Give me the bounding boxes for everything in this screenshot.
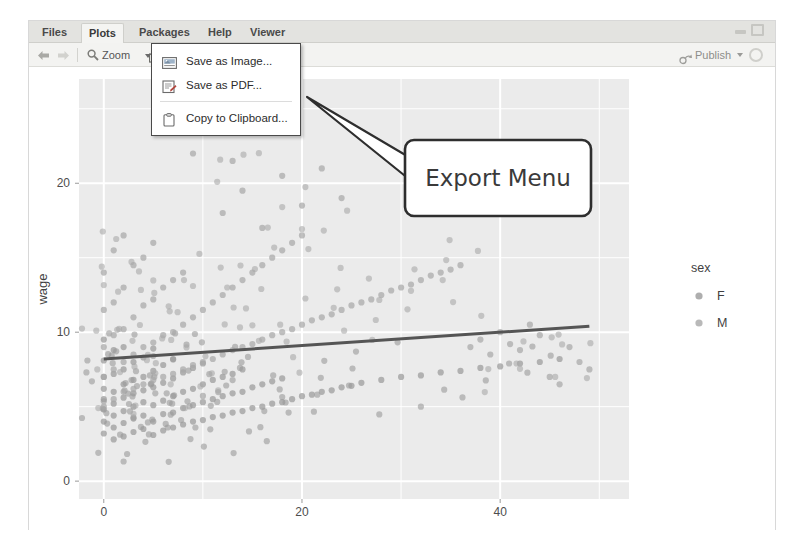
menu-separator: [160, 101, 292, 102]
plots-pane: Files Plots Packages Help Viewer: [28, 20, 776, 530]
tab-files[interactable]: Files: [35, 23, 74, 42]
menu-item-label: Copy to Clipboard...: [186, 112, 288, 124]
menu-item-label: Save as PDF...: [186, 79, 262, 91]
svg-text:0: 0: [100, 505, 107, 519]
menu-item-copy-to-clipboard[interactable]: Copy to Clipboard...: [152, 106, 300, 130]
svg-text:M: M: [717, 316, 727, 330]
refresh-icon[interactable]: [749, 48, 763, 62]
svg-text:20: 20: [295, 505, 309, 519]
ggplot-scatter: 0204001020experwagesexFM: [29, 67, 775, 530]
back-arrow-icon[interactable]: [37, 50, 50, 61]
publish-icon: [679, 49, 692, 61]
menu-item-save-as-image[interactable]: Save as Image...: [152, 49, 300, 73]
window-controls: [735, 24, 769, 38]
image-file-icon: [162, 54, 177, 68]
magnifier-icon[interactable]: [87, 49, 99, 61]
toolbar-separator: [77, 48, 78, 62]
publish-button[interactable]: Publish: [695, 43, 731, 67]
export-dropdown-menu: Save as Image... Save as PDF...: [151, 43, 301, 136]
tab-packages[interactable]: Packages: [132, 23, 197, 42]
forward-arrow-icon[interactable]: [57, 50, 70, 61]
svg-text:exper: exper: [338, 525, 371, 530]
svg-text:10: 10: [57, 325, 71, 339]
maximize-icon[interactable]: [751, 24, 764, 36]
svg-text:wage: wage: [35, 273, 50, 305]
pdf-file-icon: [162, 78, 177, 92]
tab-help[interactable]: Help: [201, 23, 239, 42]
svg-text:F: F: [717, 289, 725, 303]
svg-text:0: 0: [63, 474, 70, 488]
menu-item-label: Save as Image...: [186, 55, 272, 67]
publish-button-label: Publish: [695, 49, 731, 61]
plots-toolbar: Zoom Export: [29, 43, 775, 67]
minimize-icon[interactable]: [735, 30, 746, 34]
clipboard-icon: [162, 111, 177, 125]
menu-item-save-as-pdf[interactable]: Save as PDF...: [152, 73, 300, 97]
pane-tab-bar: Files Plots Packages Help Viewer: [29, 21, 775, 43]
svg-text:sex: sex: [691, 261, 711, 275]
svg-text:40: 40: [493, 505, 507, 519]
svg-text:20: 20: [57, 176, 71, 190]
zoom-button-label[interactable]: Zoom: [102, 43, 130, 67]
chevron-down-icon: [737, 53, 743, 57]
plot-canvas: 0204001020experwagesexFM: [29, 67, 775, 530]
tab-viewer[interactable]: Viewer: [243, 23, 292, 42]
tab-plots[interactable]: Plots: [81, 23, 124, 43]
annotation-label: Export Menu: [406, 141, 590, 215]
